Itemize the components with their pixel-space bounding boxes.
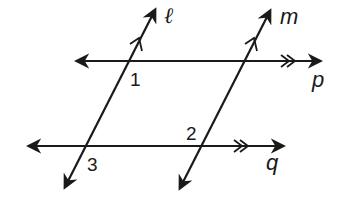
line-m — [180, 11, 270, 188]
label-l: ℓ — [164, 3, 174, 28]
line-l — [65, 10, 155, 187]
label-q: q — [266, 150, 279, 175]
angle-label-2: 2 — [186, 123, 197, 144]
line-q — [29, 140, 283, 152]
label-p: p — [311, 67, 324, 92]
label-m: m — [280, 4, 298, 29]
angle-label-1: 1 — [130, 69, 141, 90]
parallel-lines-diagram: ℓ m p q 1 2 3 — [0, 0, 351, 197]
angle-label-3: 3 — [87, 154, 98, 175]
line-p — [77, 55, 320, 67]
